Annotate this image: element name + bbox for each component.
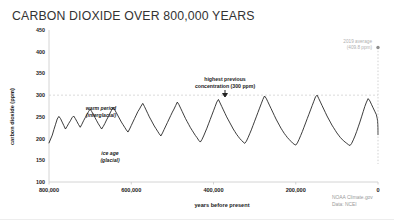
annotation-ice-age-line2: (glacial) <box>100 157 120 163</box>
modern-average-marker <box>376 46 379 164</box>
credit-line-2: Data: NCEI <box>332 202 357 207</box>
y-axis-tick-labels: 100150200250300350400450 <box>36 27 45 185</box>
x-tick-800000: 800,000 <box>39 187 59 193</box>
x-axis-title: years before present <box>194 202 249 208</box>
chart-canvas: 100150200250300350400450 800,000600,0004… <box>0 0 394 220</box>
co2-line-chart: 100150200250300350400450 800,000600,0004… <box>0 0 394 220</box>
x-tick-600000: 600,000 <box>121 187 141 193</box>
annotation-modern-average-line2: (409.8 ppm) <box>347 45 373 50</box>
x-tick-400000: 400,000 <box>203 187 223 193</box>
annotation-arrow-icon <box>223 90 228 97</box>
co2-data-series <box>49 95 378 145</box>
chart-frame: CARBON DIOXIDE OVER 800,000 YEARS 100150… <box>0 0 394 220</box>
annotation-highest-previous-line1: highest previous <box>204 76 246 82</box>
credit-line-1: NOAA Climate.gov <box>332 195 373 200</box>
y-axis-title: carbon dioxide (ppm) <box>9 88 15 145</box>
y-tick-150: 150 <box>36 157 45 163</box>
x-tick-200000: 200,000 <box>286 187 306 193</box>
annotation-highest-previous-line2: concentration (300 ppm) <box>195 83 256 89</box>
y-tick-250: 250 <box>36 114 45 120</box>
y-tick-350: 350 <box>36 70 45 76</box>
y-tick-300: 300 <box>36 92 45 98</box>
modern-average-dot <box>376 46 379 49</box>
annotation-warm-period-line2: (interglacial) <box>86 112 117 118</box>
x-axis-tick-labels: 800,000600,000400,000200,0000 <box>39 182 380 193</box>
y-tick-450: 450 <box>36 27 45 33</box>
annotation-warm-period-line1: warm period <box>86 105 117 111</box>
y-tick-200: 200 <box>36 136 45 142</box>
y-tick-100: 100 <box>36 179 45 185</box>
co2-curve <box>49 95 378 145</box>
annotation-ice-age-line1: ice age <box>101 150 118 156</box>
x-tick-0: 0 <box>376 187 379 193</box>
y-tick-400: 400 <box>36 49 45 55</box>
annotation-modern-average-line1: 2019 average <box>343 39 372 44</box>
